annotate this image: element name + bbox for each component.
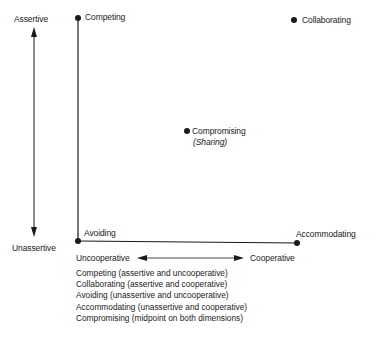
arrow-up-icon [31, 27, 37, 37]
axis-label-unassertive: Unassertive [12, 244, 56, 253]
point-sublabel-compromising: (Sharing) [193, 138, 227, 147]
point-accommodating [294, 240, 300, 246]
point-compromising [184, 128, 190, 134]
cooperativeness-axis-arrow [137, 255, 244, 261]
axis-label-cooperative: Cooperative [250, 254, 295, 263]
point-competing [75, 15, 81, 21]
legend-item-compromising: Compromising (midpoint on both dimension… [76, 313, 247, 324]
legend-item-avoiding: Avoiding (unassertive and uncooperative) [76, 290, 247, 301]
point-label-accommodating: Accommodating [296, 230, 356, 239]
point-label-avoiding: Avoiding [84, 229, 116, 238]
legend-item-competing: Competing (assertive and uncooperative) [76, 268, 247, 279]
axis-label-assertive: Assertive [14, 15, 48, 24]
point-label-compromising: Compromising [192, 127, 246, 136]
point-avoiding [75, 238, 81, 244]
point-collaborating [291, 17, 297, 23]
legend-item-collaborating: Collaborating (assertive and cooperative… [76, 279, 247, 290]
legend: Competing (assertive and uncooperative) … [76, 268, 247, 324]
arrow-left-icon [137, 255, 147, 261]
arrow-down-icon [31, 227, 37, 237]
point-label-collaborating: Collaborating [302, 16, 351, 25]
legend-item-accommodating: Accommodating (unassertive and cooperati… [76, 302, 247, 313]
assertiveness-axis-arrow [31, 27, 37, 237]
axis-label-uncooperative: Uncooperative [76, 254, 130, 263]
point-label-competing: Competing [85, 13, 125, 22]
arrow-right-icon [234, 255, 244, 261]
